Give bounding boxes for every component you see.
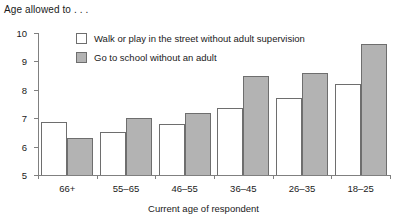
x-axis-tick-label: 55–65 (113, 183, 139, 194)
legend-item-label: Go to school without an adult (94, 52, 217, 63)
x-axis-tick (38, 175, 39, 179)
y-axis-tick-label: 10 (0, 28, 27, 39)
legend-item: Go to school without an adult (76, 48, 305, 67)
chart-legend: Walk or play in the street without adult… (76, 29, 305, 67)
x-axis-tick (390, 175, 391, 179)
x-axis-tick (273, 175, 274, 179)
x-axis-title: Current age of respondent (0, 203, 407, 214)
x-axis-tick (214, 175, 215, 179)
x-axis-tick-label: 18–25 (347, 183, 373, 194)
y-axis-tick-label: 6 (0, 141, 27, 152)
x-axis-tick-label: 46–55 (171, 183, 197, 194)
y-axis-tick-label: 5 (0, 170, 27, 181)
x-axis-tick-label: 26–35 (289, 183, 315, 194)
x-axis-tick-label: 66+ (59, 183, 75, 194)
bar (100, 132, 126, 175)
bar (41, 122, 67, 175)
bar (361, 44, 387, 175)
legend-swatch-icon (76, 33, 87, 44)
legend-item-label: Walk or play in the street without adult… (94, 33, 305, 44)
x-axis-tick (97, 175, 98, 179)
bar (302, 73, 328, 175)
bar-chart: Age allowed to . . . 5678910 66+55–6546–… (0, 0, 407, 223)
bar (126, 118, 152, 175)
x-axis-tick-label: 36–45 (230, 183, 256, 194)
chart-title: Age allowed to . . . (4, 4, 88, 15)
bar (276, 98, 302, 175)
bar (159, 124, 185, 175)
x-axis-tick (155, 175, 156, 179)
bar (243, 76, 269, 175)
y-axis-tick-label: 9 (0, 56, 27, 67)
x-axis-tick (331, 175, 332, 179)
legend-swatch-icon (76, 52, 87, 63)
bar (217, 108, 243, 175)
bar-group (335, 33, 387, 175)
legend-item: Walk or play in the street without adult… (76, 29, 305, 48)
y-axis-tick-label: 7 (0, 113, 27, 124)
bar (185, 113, 211, 175)
y-axis-tick-label: 8 (0, 84, 27, 95)
bar (67, 138, 93, 175)
bar (335, 84, 361, 175)
